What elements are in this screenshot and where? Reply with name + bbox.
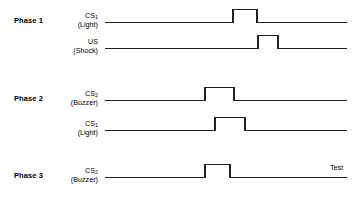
conditioning-diagram: Phase 1 CS1 (Light) US (Shock) Phase 2 C… <box>0 0 360 198</box>
trace-phase3-cs2 <box>105 165 347 178</box>
trace-phase2-cs1 <box>105 118 347 131</box>
trace-phase1-us <box>105 36 347 49</box>
stimulus-trace-group <box>0 0 360 198</box>
trace-phase1-cs1 <box>105 10 347 23</box>
trace-phase2-cs2 <box>105 88 347 101</box>
